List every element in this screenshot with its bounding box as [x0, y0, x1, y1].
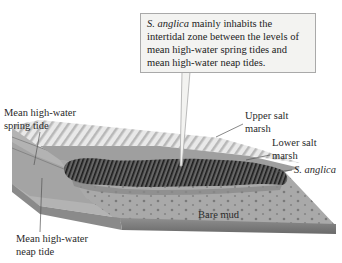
label-bare-mud: Bare mud	[198, 209, 239, 222]
label-lower-marsh-line2: marsh	[272, 150, 317, 163]
label-neap-tide-line2: neap tide	[16, 246, 88, 259]
leader-upper-marsh	[216, 124, 243, 137]
label-spring-tide: Mean high-water spring tide	[4, 107, 76, 132]
label-upper-marsh-line2: marsh	[245, 123, 288, 136]
label-s-anglica: S. anglica	[294, 164, 336, 177]
label-spring-tide-line1: Mean high-water	[4, 107, 76, 120]
label-lower-marsh-line1: Lower salt	[272, 137, 317, 150]
s-anglica-habitat-callout: S. anglica mainly inhabits the intertida…	[140, 13, 316, 73]
label-spring-tide-line2: spring tide	[4, 120, 76, 133]
label-upper-salt-marsh: Upper salt marsh	[245, 110, 288, 135]
label-neap-tide-line1: Mean high-water	[16, 233, 88, 246]
label-bare-mud-text: Bare mud	[198, 209, 239, 220]
label-neap-tide: Mean high-water neap tide	[16, 233, 88, 258]
label-lower-salt-marsh: Lower salt marsh	[272, 137, 317, 162]
callout-species-name: S. anglica	[147, 18, 189, 29]
label-s-anglica-text: S. anglica	[294, 164, 336, 175]
label-upper-marsh-line1: Upper salt	[245, 110, 288, 123]
